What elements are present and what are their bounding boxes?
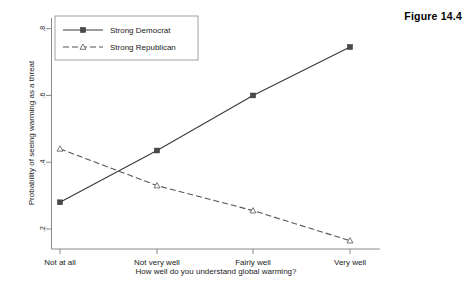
y-tick-label: .2 [39, 226, 46, 232]
data-point-marker [348, 45, 353, 50]
x-tick-label-0: Not at all [44, 258, 76, 267]
chart-plot-area: .2.4.6.8 Not at allNot very wellFairly w… [0, 0, 474, 295]
data-point-marker [57, 146, 63, 151]
y-axis-title: Probability of seeing warming as a threa… [27, 60, 36, 205]
y-tick-label: .8 [39, 26, 46, 32]
legend-swatch-marker-0 [81, 28, 86, 33]
legend-label-1: Strong Republican [110, 43, 176, 52]
x-axis-ticks: Not at allNot very wellFairly wellVery w… [44, 249, 366, 267]
chart-legend: Strong DemocratStrong Republican [55, 16, 198, 60]
legend-label-0: Strong Democrat [110, 26, 171, 35]
series-line-1 [60, 149, 350, 241]
x-tick-label-1: Not very well [134, 258, 180, 267]
x-tick-label-2: Fairly well [235, 258, 271, 267]
y-tick-label: .4 [39, 159, 46, 165]
chart-series-layer [57, 45, 353, 243]
y-tick-label: .6 [39, 92, 46, 98]
data-point-marker [251, 93, 256, 98]
x-tick-label-3: Very well [334, 258, 366, 267]
legend-box [55, 16, 198, 60]
series-line-0 [60, 47, 350, 202]
data-point-marker [58, 200, 63, 205]
data-point-marker [155, 148, 160, 153]
y-axis-ticks: .2.4.6.8 [39, 26, 52, 232]
x-axis-title: How well do you understand global warmin… [136, 267, 298, 276]
